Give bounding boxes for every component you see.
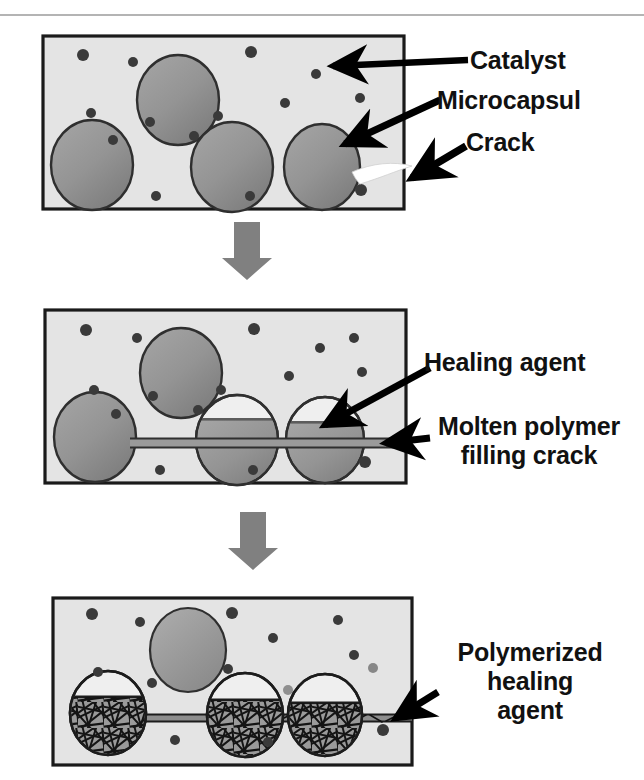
label-molten-polymer: Molten polymer filling crack (420, 412, 638, 470)
catalyst-particle (132, 333, 142, 343)
stage-arrow-2-to-3 (228, 512, 278, 570)
catalyst-particle (311, 69, 321, 79)
catalyst-particle (170, 735, 180, 745)
catalyst-particle (151, 191, 161, 201)
label-microcapsul: Microcapsul (437, 86, 581, 115)
panel-3-group (53, 598, 412, 765)
catalyst-particle (216, 385, 226, 395)
catalyst-particle (111, 409, 121, 419)
catalyst-particle (284, 371, 294, 381)
microcapsule (191, 122, 273, 212)
label-catalyst: Catalyst (470, 46, 566, 75)
catalyst-particle (355, 184, 367, 196)
catalyst-particle (333, 615, 343, 625)
catalyst-particle (135, 617, 145, 627)
catalyst-particle (377, 724, 389, 736)
catalyst-particle (155, 465, 165, 475)
catalyst-particle (148, 391, 158, 401)
label-polymerized-line-1: Polymerized (457, 638, 602, 666)
catalyst-particle (128, 57, 138, 67)
crack-channel-molten-polymer (130, 439, 406, 448)
catalyst-particle (357, 367, 367, 377)
pointer-crack (412, 146, 466, 178)
catalyst-particle (77, 49, 89, 61)
catalyst-particle (108, 135, 118, 145)
microcapsule (150, 608, 226, 692)
catalyst-particle (147, 678, 157, 688)
stage-arrow-1-to-2 (222, 222, 272, 280)
catalyst-particle (145, 117, 155, 127)
catalyst-particle (245, 191, 255, 201)
self-healing-polymer-figure: Catalyst Microcapsul Crack Healing agent… (0, 0, 644, 780)
catalyst-particle (213, 111, 223, 121)
panel-2-group (45, 310, 406, 492)
catalyst-particle (80, 324, 92, 336)
fluid-level-line (195, 418, 281, 421)
label-polymerized-line-3: agent (497, 696, 563, 724)
catalyst-particle (89, 385, 99, 395)
catalyst-particle (263, 737, 273, 747)
microcapsule (54, 392, 136, 482)
catalyst-particle (193, 405, 203, 415)
catalyst-particle (349, 650, 359, 660)
label-healing-agent: Healing agent (424, 348, 585, 377)
catalyst-particle (349, 333, 359, 343)
catalyst-particle (268, 633, 278, 643)
microcapsule (140, 328, 222, 418)
label-molten-polymer-line-1: Molten polymer (438, 412, 620, 440)
catalyst-particle (226, 607, 238, 619)
catalyst-particle (359, 456, 371, 468)
label-polymerized-healing-agent: Polymerized healing agent (432, 638, 628, 725)
catalyst-particle (280, 98, 290, 108)
label-molten-polymer-line-2: filling crack (461, 441, 597, 469)
catalyst-particle (248, 465, 258, 475)
catalyst-particle (223, 664, 233, 674)
catalyst-particle (248, 323, 260, 335)
catalyst-particle (355, 93, 365, 103)
catalyst-particle (93, 667, 103, 677)
catalyst-particle (283, 685, 293, 695)
catalyst-particle (245, 46, 257, 58)
catalyst-particle (315, 343, 325, 353)
label-crack: Crack (466, 128, 535, 157)
microcapsule (51, 120, 133, 210)
catalyst-particle (368, 663, 378, 673)
catalyst-particle (86, 108, 96, 118)
label-polymerized-line-2: healing (487, 667, 573, 695)
catalyst-particle (189, 131, 199, 141)
catalyst-particle (86, 608, 98, 620)
microcapsule (284, 124, 360, 210)
